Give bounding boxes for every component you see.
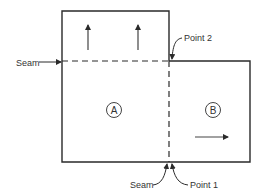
seam-bottom-pointer [153,164,167,185]
panel-a-label: A [107,103,122,118]
point-1-pointer [172,164,188,185]
point-1-label: Point 1 [190,180,218,190]
panel-b-letter: B [210,105,217,116]
seam-bottom-label: Seam [130,180,154,190]
seam-left-label: Seam [16,58,40,68]
panel-b-label: B [206,103,221,118]
panel-a [62,11,169,162]
point-2-label: Point 2 [184,33,212,43]
point-2-pointer [172,38,182,59]
panel-a-letter: A [111,105,118,116]
seam-diagram: A B Seam Point 2 Seam Point 1 [0,0,260,196]
